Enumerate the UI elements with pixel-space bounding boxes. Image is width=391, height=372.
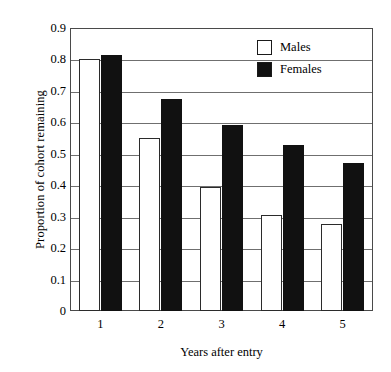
x-axis-tick-label: 4 <box>262 317 302 331</box>
y-axis-tick-label: 0.1 <box>26 273 66 286</box>
legend-item-males: Males <box>257 36 322 58</box>
y-axis-tick-label: 0.9 <box>26 22 66 35</box>
y-axis-tick-label: 0.7 <box>26 85 66 98</box>
gridline <box>71 186 372 187</box>
legend-swatch-males-icon <box>257 40 272 55</box>
legend-item-females: Females <box>257 58 322 80</box>
legend-label-males: Males <box>280 40 311 54</box>
gridline <box>71 123 372 124</box>
legend-swatch-females-icon <box>257 62 272 77</box>
x-axis-tick-label: 3 <box>202 317 242 331</box>
y-axis-tick-label: 0.6 <box>26 116 66 129</box>
x-axis-title: Years after entry <box>70 345 373 359</box>
y-axis-tick-label: 0.5 <box>26 148 66 161</box>
legend-label-females: Females <box>280 62 322 76</box>
gridline <box>71 92 372 93</box>
plot-area <box>70 28 373 311</box>
x-axis-tick-label: 5 <box>323 317 363 331</box>
y-axis-tick-label: 0 <box>26 305 66 318</box>
gridline <box>71 155 372 156</box>
y-axis-tick-label: 0.4 <box>26 179 66 192</box>
gridline <box>71 249 372 250</box>
y-axis-title: Proportion of cohort remaining <box>32 28 48 311</box>
y-axis-tick-label: 0.8 <box>26 53 66 66</box>
x-axis-tick-label: 2 <box>141 317 181 331</box>
y-axis-tick-label: 0.2 <box>26 242 66 255</box>
bar-chart: Proportion of cohort remaining 00.10.20.… <box>0 0 391 372</box>
gridline <box>71 281 372 282</box>
gridline <box>71 60 372 61</box>
y-axis-tick-label: 0.3 <box>26 210 66 223</box>
gridline <box>71 218 372 219</box>
x-axis-tick-label: 1 <box>80 317 120 331</box>
legend: Males Females <box>257 36 322 80</box>
